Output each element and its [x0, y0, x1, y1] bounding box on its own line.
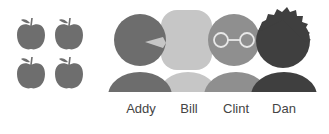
people-group	[0, 0, 329, 92]
person-label-dan: Dan	[272, 101, 296, 116]
person-label-addy: Addy	[126, 101, 156, 116]
person-dan	[251, 7, 317, 92]
person-label-clint: Clint	[223, 101, 249, 116]
person-bill	[158, 10, 218, 92]
person-clint	[204, 14, 268, 92]
person-label-bill: Bill	[180, 101, 197, 116]
